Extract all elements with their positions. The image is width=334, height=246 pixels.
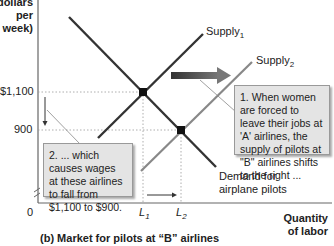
leader-line-note2: [47, 110, 80, 144]
supply1-label-sub: 1: [240, 31, 244, 40]
labor-right-arrow-icon: [147, 193, 177, 198]
x-tick-l1-sub: 1: [145, 212, 149, 221]
equilibrium-point-1: [139, 88, 147, 96]
y-tick-900: 900: [14, 123, 32, 135]
x-tick-zero: 0: [27, 206, 33, 218]
annotation-note-2: 2. ... which causes wages at these airli…: [43, 143, 133, 197]
chart-caption: (b) Market for pilots at “B” airlines: [40, 232, 219, 244]
wage-down-arrow-icon: [43, 97, 48, 126]
x-tick-l2: L2: [176, 206, 187, 221]
x-tick-l2-sub: 2: [182, 212, 186, 221]
y-axis-label-line3: week): [0, 22, 33, 35]
equilibrium-point-2: [177, 126, 185, 134]
supply1-label: Supply1: [206, 25, 244, 40]
x-axis-title-line2: of labor: [283, 225, 328, 238]
supply2-label-text: Supply: [256, 54, 290, 66]
supply2-label-sub: 2: [290, 60, 294, 69]
demand-label-line2: airplane pilots: [219, 183, 287, 196]
x-tick-l1: L1: [139, 206, 150, 221]
y-tick-1100: $1,100: [0, 85, 34, 97]
supply1-curve: [98, 34, 203, 138]
supply1-label-text: Supply: [206, 25, 240, 37]
y-axis-label-line2: per: [0, 9, 33, 22]
shift-right-arrow-icon: [171, 67, 231, 84]
supply2-label: Supply2: [256, 54, 294, 69]
y-axis-label-line1: (dollars: [0, 0, 33, 9]
annotation-note-1: 1. When women are forced to leave their …: [234, 85, 330, 155]
x-axis-title-line1: Quantity: [283, 212, 328, 225]
axis-break-icon: [34, 188, 40, 197]
x-axis-title: Quantity of labor: [283, 212, 328, 238]
y-axis-label: (dollars per week): [0, 0, 33, 35]
